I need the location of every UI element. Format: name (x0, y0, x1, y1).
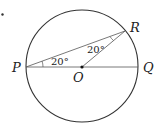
stray-dot (1, 13, 3, 15)
angle-arc-P (42, 61, 43, 67)
angle-arc-R (110, 37, 114, 41)
angle-label-RPQ: 20° (51, 56, 69, 67)
chord-PR (26, 31, 125, 67)
label-O: O (73, 70, 84, 85)
label-Q: Q (143, 60, 154, 75)
circle-diagram: P Q O R 20° 20° (0, 0, 160, 127)
label-R: R (129, 20, 140, 35)
angle-label-PRO: 20° (87, 44, 105, 55)
label-P: P (11, 60, 21, 75)
center-point-O (80, 65, 83, 68)
